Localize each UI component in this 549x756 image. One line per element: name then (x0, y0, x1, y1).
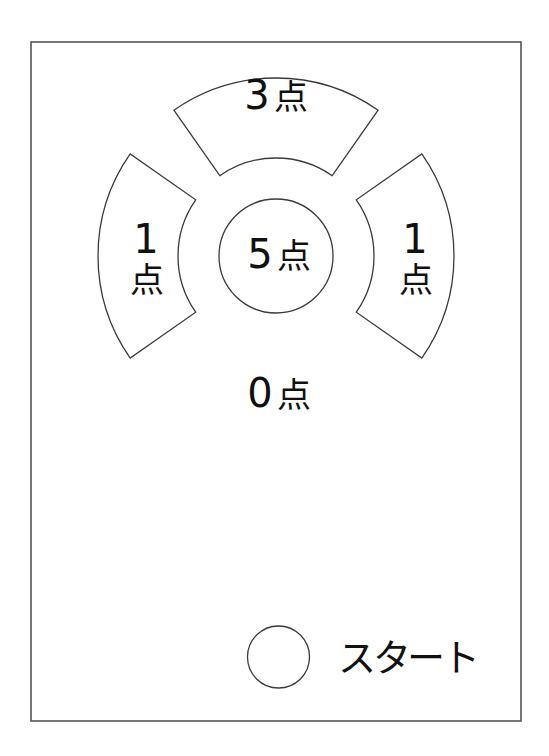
left-sector-unit: 点 (130, 260, 164, 300)
right-sector-digit: 1 (402, 216, 427, 262)
start-label: スタート (338, 636, 480, 680)
target-board-diagram: 3点 1 点 1 点 5点 0点 スタート (0, 0, 549, 756)
right-sector-unit: 点 (399, 260, 433, 300)
zone-center-5-points[interactable]: 5点 (219, 199, 333, 313)
center-label: 5点 (247, 231, 310, 277)
outside-zone-label: 0点 (247, 370, 310, 416)
top-sector-label: 3点 (244, 72, 307, 118)
left-sector-digit: 1 (133, 216, 158, 262)
start-circle[interactable] (248, 626, 310, 688)
